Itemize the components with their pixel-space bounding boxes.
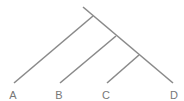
branch-d [83, 7, 173, 83]
tree-lines [0, 0, 184, 101]
leaf-label-b: B [55, 89, 62, 101]
branch-b [60, 36, 116, 83]
leaf-label-a: A [9, 89, 16, 101]
cladogram-diagram: A B C D [0, 0, 184, 101]
leaf-label-d: D [170, 89, 178, 101]
branch-c [107, 55, 139, 83]
branch-a [14, 16, 93, 83]
leaf-label-c: C [102, 89, 110, 101]
